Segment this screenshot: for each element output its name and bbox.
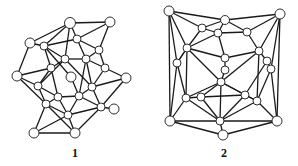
atom: [105, 17, 115, 27]
atom: [218, 130, 228, 140]
atom: [221, 66, 229, 74]
atom: [241, 91, 249, 99]
atom: [82, 55, 90, 63]
atom: [221, 54, 229, 62]
atom: [64, 111, 72, 119]
cluster-structure-2: [164, 6, 285, 140]
bond: [70, 22, 110, 23]
bond: [34, 115, 68, 133]
bond: [75, 107, 101, 133]
atom: [165, 116, 175, 126]
atom: [255, 47, 263, 55]
atom: [47, 64, 55, 72]
bond: [170, 121, 223, 135]
atom: [214, 29, 222, 37]
atom: [197, 93, 205, 101]
bond: [220, 95, 245, 121]
bond: [220, 101, 257, 121]
bond: [223, 121, 277, 135]
atom: [70, 128, 80, 138]
atom: [34, 82, 42, 90]
atom: [221, 16, 230, 25]
bond: [201, 95, 245, 97]
atom: [66, 72, 76, 82]
atom: [243, 28, 251, 36]
atom: [61, 55, 69, 63]
atom: [182, 94, 190, 102]
bond: [186, 48, 187, 98]
atom: [121, 73, 131, 83]
bond: [186, 98, 220, 121]
bond: [79, 59, 86, 96]
atom: [272, 116, 282, 126]
atom: [42, 100, 50, 108]
bond: [169, 11, 170, 121]
atom: [217, 78, 225, 86]
structure-label-2: 2: [221, 146, 227, 161]
structure-label-1: 1: [72, 146, 78, 161]
atom: [54, 93, 62, 101]
atom: [183, 44, 191, 52]
bond: [51, 68, 58, 97]
bond: [271, 69, 277, 121]
atom: [253, 97, 261, 105]
bond: [77, 22, 110, 39]
cluster-figure: [0, 0, 298, 166]
atom: [12, 71, 22, 81]
atom: [198, 24, 206, 32]
bond: [201, 97, 220, 121]
atom: [97, 103, 105, 111]
bond: [245, 61, 267, 95]
atom: [95, 46, 103, 54]
bond: [101, 78, 126, 107]
atom: [173, 59, 181, 67]
bond: [187, 33, 218, 48]
cluster-structure-1: [12, 17, 131, 138]
atom: [25, 38, 35, 48]
atom: [164, 6, 174, 16]
atom: [75, 92, 83, 100]
atom: [88, 83, 96, 91]
atom: [263, 57, 271, 65]
atom: [267, 65, 275, 73]
atom: [275, 9, 285, 19]
bond: [68, 107, 101, 115]
atom: [101, 64, 109, 72]
atom: [216, 117, 224, 125]
bond: [177, 63, 186, 98]
atom: [29, 128, 39, 138]
atom: [109, 104, 119, 114]
bond: [44, 39, 77, 46]
bond: [220, 82, 221, 121]
atom: [73, 35, 81, 43]
atom: [65, 18, 76, 29]
atom: [40, 42, 48, 50]
